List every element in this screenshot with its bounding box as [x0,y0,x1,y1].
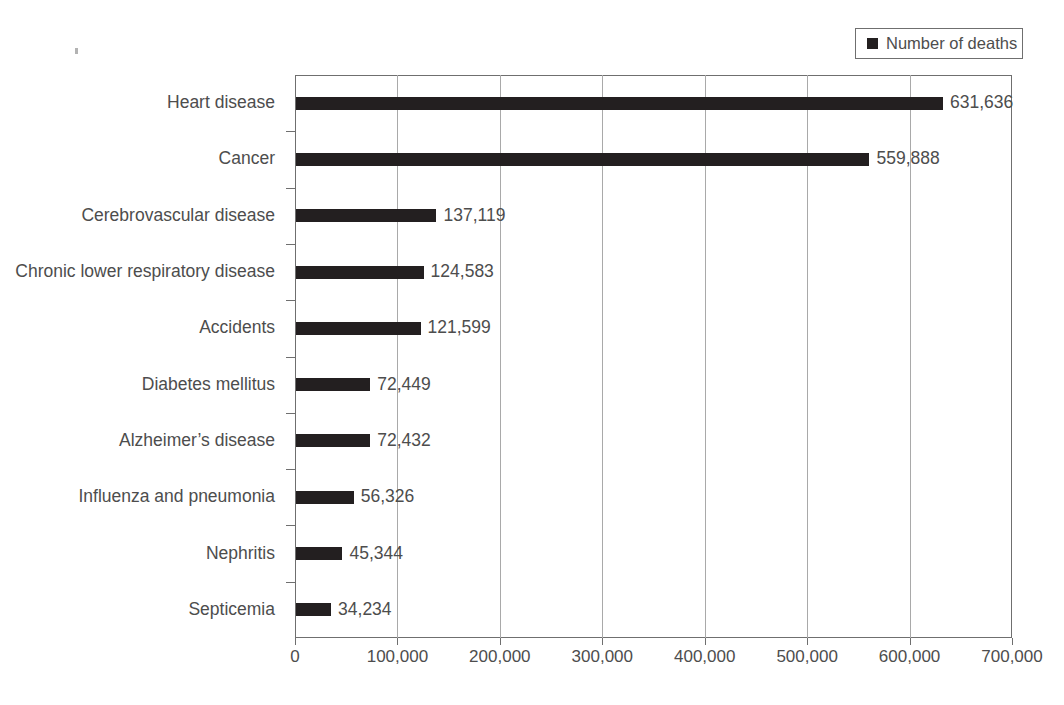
y-axis-tick [286,469,295,470]
bar-value-label: 72,432 [377,432,431,450]
bar [296,378,370,391]
bar [296,153,869,166]
x-axis-tick [602,638,603,645]
x-axis-tick [295,638,296,645]
plot-border-bottom [295,637,1012,638]
bar-value-label: 121,599 [428,320,491,338]
bar-value-label: 56,326 [361,489,415,507]
category-label: Nephritis [206,545,275,563]
y-axis-tick [286,413,295,414]
bar [296,603,331,616]
x-axis-tick [910,638,911,645]
x-axis-tick-label: 300,000 [572,648,633,665]
x-axis-tick-label: 700,000 [981,648,1042,665]
category-label: Alzheimer’s disease [119,432,275,450]
y-axis-tick [286,300,295,301]
y-axis-tick [286,525,295,526]
x-axis-tick [500,638,501,645]
bar [296,322,421,335]
category-label: Cerebrovascular disease [81,207,275,225]
x-axis-tick-label: 500,000 [776,648,837,665]
plot-border-right [1011,75,1012,638]
category-axis: Heart diseaseCancerCerebrovascular disea… [0,75,285,638]
bar [296,266,424,279]
x-axis-tick-label: 400,000 [674,648,735,665]
x-axis-tick [397,638,398,645]
y-axis-tick [286,582,295,583]
bar-value-label: 34,234 [338,601,392,619]
bar [296,209,436,222]
scan-artifact [75,48,78,54]
bar-value-label: 124,583 [431,263,494,281]
bar-value-label: 631,636 [950,94,1013,112]
y-axis-tick [286,188,295,189]
category-label: Influenza and pneumonia [78,489,275,507]
legend-label: Number of deaths [886,35,1017,52]
bar [296,547,342,560]
plot-area: 631,636559,888137,119124,583121,59972,44… [295,75,1012,638]
bar-value-label: 137,119 [443,207,505,225]
category-label: Accidents [199,320,275,338]
bar [296,434,370,447]
y-axis-tick [286,244,295,245]
bar [296,491,354,504]
category-label: Heart disease [167,94,275,112]
x-axis-tick [705,638,706,645]
category-label: Cancer [219,151,275,169]
legend-swatch-icon [867,38,878,49]
bar-value-label: 45,344 [349,545,403,563]
x-axis-tick-label: 100,000 [367,648,428,665]
x-axis-tick-label: 0 [290,648,299,665]
bar-chart: Number of deaths Heart diseaseCancerCere… [0,0,1064,705]
plot-border-top [295,75,1012,76]
bar [296,97,943,110]
x-axis-tick-label: 600,000 [879,648,940,665]
category-label: Septicemia [188,601,275,619]
category-label: Chronic lower respiratory disease [15,263,275,281]
y-axis-tick [286,357,295,358]
x-axis-tick [807,638,808,645]
chart-legend: Number of deaths [855,28,1023,59]
category-label: Diabetes mellitus [142,376,275,394]
x-axis-tick [1012,638,1013,645]
x-axis-tick-label: 200,000 [469,648,530,665]
y-axis-tick [286,131,295,132]
bar-value-label: 72,449 [377,376,431,394]
bar-value-label: 559,888 [876,151,939,169]
